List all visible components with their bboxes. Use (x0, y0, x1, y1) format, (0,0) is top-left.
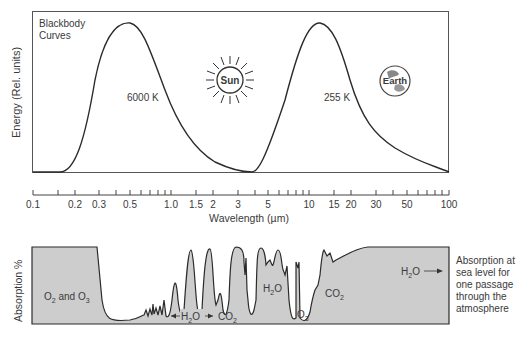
wavelength-tick-labels: 0.1 0.2 0.3 0.5 1.0 1.5 2 3 5 10 15 20 3… (26, 199, 458, 210)
tick-label: 3 (235, 199, 241, 210)
tick-label: 0.3 (92, 199, 106, 210)
tick-label: 5 (265, 199, 271, 210)
tick-label: 10 (303, 199, 315, 210)
tick-label: 0.2 (68, 199, 82, 210)
earth-temperature-label: 255 K (324, 92, 350, 103)
svg-text:through the: through the (456, 291, 507, 302)
tick-label: 1.5 (189, 199, 203, 210)
absorption-area (32, 247, 449, 324)
wavelength-axis-ticks (33, 190, 449, 195)
absorption-caption: Absorption at sea level for one passage … (456, 255, 515, 314)
earth-icon: Earth (380, 66, 410, 96)
tick-label: 1.0 (164, 199, 178, 210)
tick-label: 30 (370, 199, 382, 210)
tick-label: 0.1 (26, 199, 40, 210)
tick-label: 15 (328, 199, 340, 210)
sun-label: Sun (221, 75, 240, 86)
svg-text:atmosphere: atmosphere (456, 303, 509, 314)
absorption-axis-label: Absorption % (12, 260, 24, 322)
blackbody-title-line1: Blackbody (39, 18, 85, 29)
svg-text:Absorption at: Absorption at (456, 255, 515, 266)
tick-label: 0.5 (123, 199, 137, 210)
wavelength-axis-label: Wavelength (µm) (209, 212, 289, 224)
sun-icon: Sun (206, 56, 254, 104)
figure: Blackbody Curves Energy (Rel. units) 600… (0, 0, 529, 340)
sun-temperature-label: 6000 K (127, 92, 159, 103)
svg-text:one passage: one passage (456, 279, 514, 290)
tick-label: 100 (441, 199, 458, 210)
tick-label: 20 (345, 199, 357, 210)
energy-axis-label: Energy (Rel. units) (10, 47, 22, 138)
tick-label: 50 (401, 199, 413, 210)
tick-label: 2 (210, 199, 216, 210)
earth-label: Earth (383, 75, 407, 86)
blackbody-title-line2: Curves (39, 30, 71, 41)
svg-text:sea level for: sea level for (456, 267, 511, 278)
